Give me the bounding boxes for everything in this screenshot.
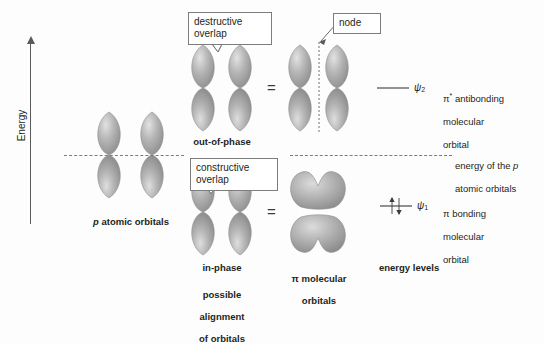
- caption-p-rest: atomic orbitals: [99, 216, 169, 227]
- psi1-desc-line1: bonding: [450, 208, 486, 219]
- pi-mo-symbol: π: [292, 273, 299, 284]
- equals-sign-bottom: =: [267, 203, 276, 220]
- reference-label-line1: energy of the: [455, 160, 513, 171]
- out-of-phase-orbital-left: [192, 45, 215, 131]
- out-of-phase-orbital-right: [229, 45, 252, 131]
- caption-out-of-phase: out-of-phase: [176, 136, 268, 148]
- callout-node: node: [333, 13, 381, 34]
- reference-line-right: [290, 155, 452, 156]
- antibonding-mo-orbital-left: [289, 45, 312, 131]
- psi1-desc-line3: orbital: [443, 254, 469, 265]
- pi-mo-caption: molecular: [299, 273, 347, 284]
- caption-in-phase: in-phase: [182, 262, 262, 274]
- callout-destructive-overlap: destructive overlap: [188, 12, 272, 45]
- alignment-line2: alignment: [200, 311, 245, 322]
- psi2-description: π* antibonding molecular orbital: [443, 78, 543, 150]
- psi2-desc-line1: antibonding: [452, 93, 504, 104]
- callout-constructive-line2: overlap: [196, 174, 229, 185]
- reference-line-left: [64, 155, 184, 156]
- reference-line-label: energy of the p atomic orbitals: [455, 148, 543, 194]
- reference-label-italic: p: [513, 160, 518, 171]
- pi-mo-caption2: orbitals: [302, 295, 336, 306]
- callout-constructive-line1: constructive: [196, 162, 249, 173]
- caption-p-atomic-orbitals: p atomic orbitals: [71, 204, 191, 227]
- psi1-index: 1: [424, 204, 428, 211]
- psi2-label: ψ2: [414, 82, 425, 93]
- psi2-desc-line2: molecular: [443, 116, 484, 127]
- caption-pi-molecular-orbitals: π molecular orbitals: [272, 262, 366, 306]
- callout-node-label: node: [339, 17, 361, 28]
- energy-axis-line: [30, 42, 31, 224]
- alignment-line3: of orbitals: [199, 333, 245, 344]
- psi1-desc-line2: molecular: [443, 231, 484, 242]
- antibonding-mo-orbital-right: [326, 45, 349, 131]
- energy-axis-label: Energy: [16, 96, 27, 156]
- alignment-line1: possible: [203, 289, 242, 300]
- psi1-label: ψ1: [417, 200, 428, 211]
- reference-label-line2: atomic orbitals: [455, 183, 516, 194]
- psi2-index: 2: [421, 86, 425, 93]
- callout-constructive-overlap: constructive overlap: [190, 158, 278, 191]
- callout-destructive-line1: destructive: [194, 16, 242, 27]
- caption-possible-alignment: possible alignment of orbitals: [180, 278, 264, 344]
- caption-energy-levels: energy levels: [379, 262, 439, 274]
- psi1-description: π bonding molecular orbital: [443, 196, 543, 265]
- pi-bonding-mo-orbital: [291, 172, 346, 253]
- equals-sign-top: =: [267, 79, 276, 96]
- callout-destructive-line2: overlap: [194, 28, 227, 39]
